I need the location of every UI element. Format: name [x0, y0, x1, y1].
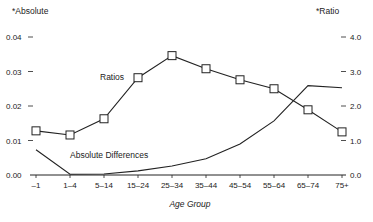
right-tick-label: 4.0 [350, 33, 362, 42]
x-axis: –11–45–1415–2425–3435–4445–5455–6465–747… [30, 175, 349, 190]
ratio-marker [202, 65, 210, 73]
ratio-marker [236, 76, 244, 84]
x-tick-label: 5–14 [95, 181, 113, 190]
ratios-label: Ratios [100, 72, 124, 82]
ratio-marker [66, 131, 74, 139]
ratio-marker [168, 52, 176, 60]
left-tick-label: 0.04 [6, 33, 22, 42]
x-tick-label: 25–34 [161, 181, 184, 190]
x-tick-label: 15–24 [127, 181, 150, 190]
x-tick-label: 1–4 [63, 181, 77, 190]
x-tick-label: –1 [32, 181, 41, 190]
right-tick-label: 0.0 [350, 171, 362, 180]
x-tick-label: 55–64 [263, 181, 286, 190]
ratio-marker [270, 85, 278, 93]
absolute-differences-series [36, 86, 342, 175]
right-tick-label: 1.0 [350, 137, 362, 146]
x-tick-label: 65–74 [297, 181, 320, 190]
left-tick-label: 0.02 [6, 102, 22, 111]
ratio-marker [134, 74, 142, 82]
left-tick-label: 0.03 [6, 68, 22, 77]
right-axis: 0.01.02.03.04.0 [341, 33, 362, 180]
x-tick-label: 75+ [335, 181, 349, 190]
x-tick-label: 45–54 [229, 181, 252, 190]
right-tick-label: 3.0 [350, 68, 362, 77]
left-axis-title: *Absolute [12, 6, 49, 16]
right-axis-title: *Ratio [316, 6, 339, 16]
ratio-marker [32, 127, 40, 135]
chart-canvas: *Absolute *Ratio 0.000.010.020.030.04 0.… [0, 0, 373, 222]
ratio-marker [100, 115, 108, 123]
ratio-marker [304, 106, 312, 114]
left-tick-label: 0.00 [6, 171, 22, 180]
ratio-marker [338, 128, 346, 136]
x-axis-title: Age Group [168, 199, 210, 209]
right-tick-label: 2.0 [350, 102, 362, 111]
x-tick-label: 35–44 [195, 181, 218, 190]
left-axis: 0.000.010.020.030.04 [6, 33, 33, 180]
left-tick-label: 0.01 [6, 137, 22, 146]
absolute-differences-label: Absolute Differences [70, 150, 148, 160]
